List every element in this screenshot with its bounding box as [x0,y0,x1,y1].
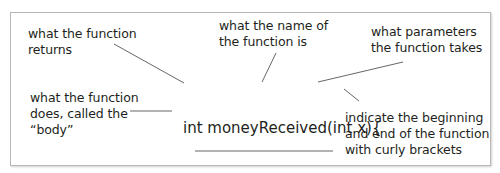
annotation-parameters: what parameters the function takes [371,24,482,56]
annotation-returns: what the function returns [28,26,137,58]
annotation-line: what parameters [371,24,482,40]
annotation-line: “body” [30,122,139,138]
annotation-line: does, called the [30,106,139,122]
annotation-line: what the function [28,26,137,42]
annotation-line: the function is [219,34,328,50]
annotation-line: what the function [30,90,139,106]
annotation-line: the function takes [371,40,482,56]
parameters-leader-line [318,62,403,82]
code-block: int moneyReceived(int x){ myBank+=money;… [183,81,381,173]
name-leader-line [262,53,276,82]
annotation-line: returns [28,42,137,58]
code-line-signature: int moneyReceived(int x){ [183,119,381,138]
annotation-line: what the name of [219,18,328,34]
annotation-body: what the function does, called the “body… [30,90,139,138]
annotation-name: what the name of the function is [219,18,328,50]
